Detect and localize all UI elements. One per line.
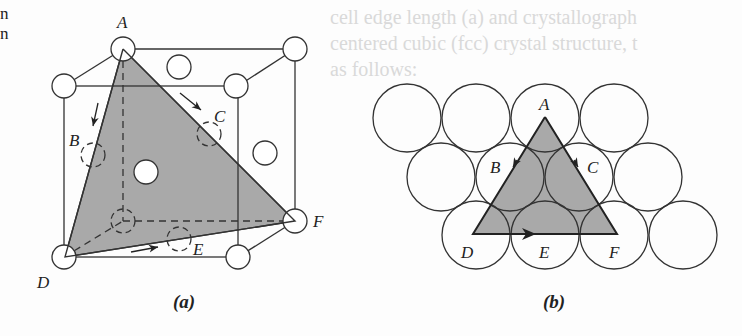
label-E: E [538,243,550,262]
caption-a: (a) [173,291,195,313]
label-E: E [192,240,204,259]
arrow-AB [93,103,98,126]
label-B: B [69,131,80,150]
diagram-canvas: A B C D E F (a) [0,0,742,336]
label-C: C [214,107,226,126]
label-A: A [538,95,550,114]
face-center-atom [134,160,158,184]
atom-D [52,245,76,269]
caption-b: (b) [543,291,565,313]
label-D: D [36,273,50,292]
label-F: F [608,243,620,262]
arrow-DE [131,247,158,252]
label-F: F [312,212,324,231]
label-B: B [490,158,501,177]
label-D: D [460,243,474,262]
label-A: A [116,13,128,32]
fcc-unit-cell [52,37,307,269]
label-C: C [587,158,599,177]
figure-root: n n cell edge length (a) and crystallogr… [0,0,742,336]
arrow-AC [180,93,201,110]
